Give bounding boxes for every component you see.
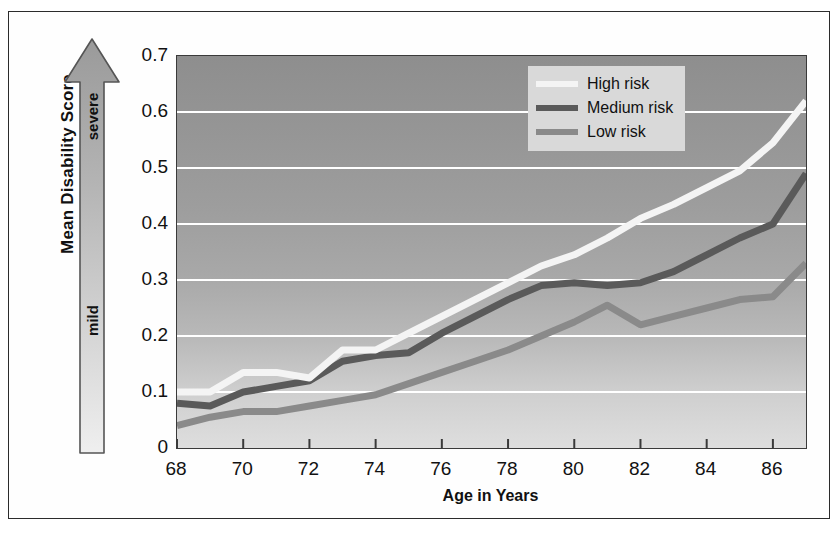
y-tick-label: 0.6 [132, 101, 168, 120]
x-tick-label: 82 [629, 459, 650, 478]
y-tick-label: 0.3 [132, 269, 168, 288]
y-tick-label: 0.5 [132, 157, 168, 176]
arrow-label-mild: mild [84, 291, 101, 351]
y-tick-label: 0.2 [132, 325, 168, 344]
y-tick-label: 0 [132, 437, 168, 456]
y-tick-label: 0.4 [132, 213, 168, 232]
y-axis-tick-labels: 00.10.20.30.40.50.60.7 [128, 0, 168, 534]
legend-label: Low risk [587, 123, 646, 141]
legend-label: High risk [587, 75, 649, 93]
legend-label: Medium risk [587, 99, 673, 117]
x-tick-label: 80 [563, 459, 584, 478]
x-tick-label: 72 [298, 459, 319, 478]
x-tick-label: 74 [364, 459, 385, 478]
x-tick-label: 76 [430, 459, 451, 478]
legend-item: Medium risk [536, 96, 673, 120]
x-tick-label: 84 [695, 459, 716, 478]
x-tick-label: 68 [165, 459, 186, 478]
plot-area [176, 55, 807, 449]
legend-item: Low risk [536, 120, 673, 144]
legend-swatch [536, 129, 578, 135]
x-tick-label: 86 [761, 459, 782, 478]
legend-swatch [536, 81, 578, 87]
legend-swatch [536, 105, 578, 111]
x-tick-label: 70 [232, 459, 253, 478]
series-line-high-risk [177, 101, 806, 392]
y-tick-label: 0.7 [132, 45, 168, 64]
arrow-label-severe: severe [84, 87, 101, 147]
chart-legend: High riskMedium riskLow risk [528, 66, 685, 151]
legend-item: High risk [536, 72, 673, 96]
plot-inner [177, 56, 806, 448]
y-tick-label: 0.1 [132, 381, 168, 400]
x-tick-label: 78 [496, 459, 517, 478]
x-axis-tick-labels: 68707274767880828486 [176, 455, 805, 483]
x-axis-title: Age in Years [176, 487, 805, 505]
chart-figure: Mean Disability Score severe mild 00.10.… [0, 0, 840, 534]
